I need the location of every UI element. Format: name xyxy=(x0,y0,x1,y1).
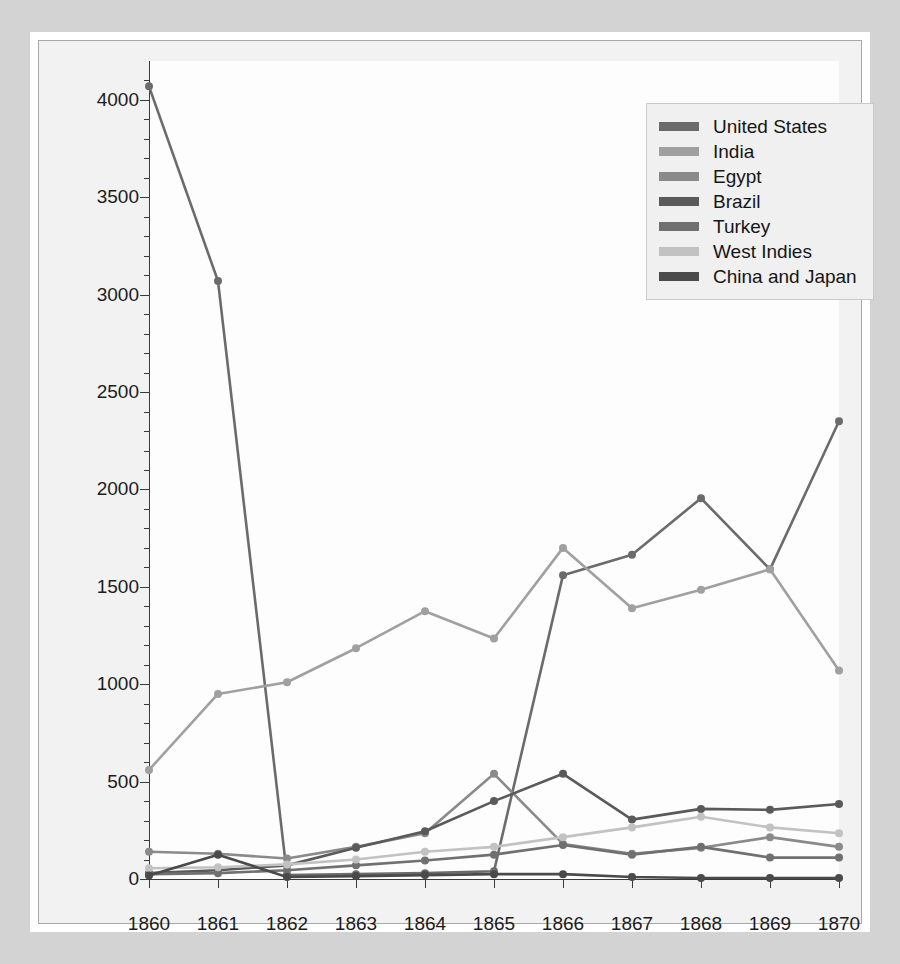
x-tick-label: 1862 xyxy=(266,913,308,935)
y-tick-mark xyxy=(140,587,149,588)
x-tick-label: 1870 xyxy=(818,913,860,935)
legend-swatch-icon xyxy=(659,147,699,156)
legend-swatch-icon xyxy=(659,172,699,181)
y-tick-label: 1000 xyxy=(97,673,139,695)
y-tick-mark xyxy=(140,782,149,783)
legend-item[interactable]: United States xyxy=(659,114,857,139)
legend-item-label: West Indies xyxy=(713,241,812,263)
x-tick-label: 1863 xyxy=(335,913,377,935)
y-tick-mark xyxy=(140,392,149,393)
x-tick-mark xyxy=(218,879,219,888)
chart-legend: United StatesIndiaEgyptBrazilTurkeyWest … xyxy=(646,103,874,300)
y-tick-label: 0 xyxy=(128,868,139,890)
series-india xyxy=(145,544,843,774)
x-tick-mark xyxy=(563,879,564,888)
y-tick-label: 500 xyxy=(107,771,139,793)
x-tick-label: 1866 xyxy=(542,913,584,935)
y-tick-label: 4000 xyxy=(97,89,139,111)
screenshot-root: Cotton imports per thousand 400-pound ba… xyxy=(0,0,900,964)
y-tick-label: 3000 xyxy=(97,284,139,306)
legend-swatch-icon xyxy=(659,272,699,281)
legend-item-label: Egypt xyxy=(713,166,762,188)
legend-item[interactable]: Turkey xyxy=(659,214,857,239)
x-tick-label: 1867 xyxy=(611,913,653,935)
legend-item[interactable]: India xyxy=(659,139,857,164)
chart-figure: Cotton imports per thousand 400-pound ba… xyxy=(38,40,862,924)
x-tick-mark xyxy=(425,879,426,888)
legend-swatch-icon xyxy=(659,122,699,131)
legend-item-label: Brazil xyxy=(713,191,761,213)
y-tick-label: 3500 xyxy=(97,186,139,208)
x-tick-mark xyxy=(149,879,150,888)
y-tick-mark xyxy=(140,489,149,490)
plot-area: 05001000150020002500300035004000 1860186… xyxy=(149,61,839,899)
x-tick-label: 1861 xyxy=(197,913,239,935)
legend-swatch-icon xyxy=(659,197,699,206)
legend-item[interactable]: China and Japan xyxy=(659,264,857,289)
legend-item[interactable]: Egypt xyxy=(659,164,857,189)
legend-item-label: India xyxy=(713,141,754,163)
legend-swatch-icon xyxy=(659,222,699,231)
y-tick-label: 1500 xyxy=(97,576,139,598)
legend-item-label: United States xyxy=(713,116,827,138)
legend-item[interactable]: Brazil xyxy=(659,189,857,214)
x-tick-label: 1868 xyxy=(680,913,722,935)
y-tick-label: 2500 xyxy=(97,381,139,403)
x-tick-label: 1864 xyxy=(404,913,446,935)
y-tick-mark xyxy=(140,295,149,296)
x-tick-mark xyxy=(356,879,357,888)
y-tick-mark xyxy=(140,684,149,685)
legend-item[interactable]: West Indies xyxy=(659,239,857,264)
legend-item-label: Turkey xyxy=(713,216,770,238)
legend-item-label: China and Japan xyxy=(713,266,857,288)
y-tick-label: 2000 xyxy=(97,478,139,500)
y-tick-mark xyxy=(140,100,149,101)
x-tick-label: 1865 xyxy=(473,913,515,935)
x-tick-label: 1869 xyxy=(749,913,791,935)
legend-swatch-icon xyxy=(659,247,699,256)
y-tick-mark xyxy=(140,197,149,198)
x-tick-mark xyxy=(494,879,495,888)
x-tick-label: 1860 xyxy=(128,913,170,935)
